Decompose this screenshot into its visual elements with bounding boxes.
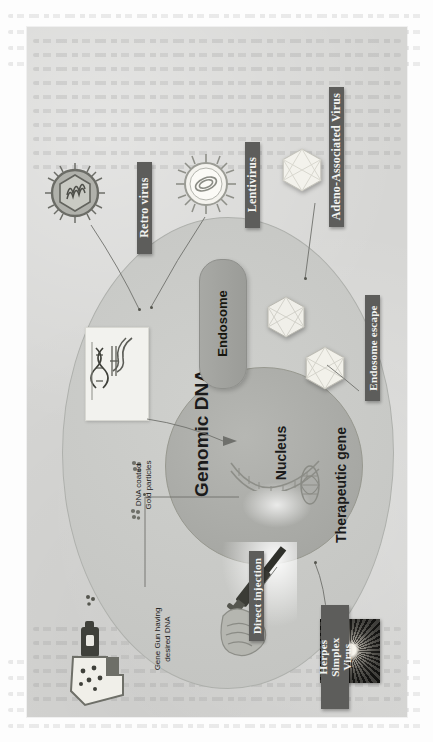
ribbon-label: Direct injection (250, 558, 262, 634)
escaped-capsid-icon (302, 345, 348, 391)
retro-virus-icon (43, 161, 107, 225)
plasmid-dna-panel-icon (85, 327, 149, 421)
gene-gun-icon (67, 619, 145, 711)
ribbon-endosome-escape[interactable]: Endosome escape (365, 295, 380, 401)
arrow-head (223, 433, 241, 451)
aav-capsid-icon (279, 147, 325, 193)
anchor-dot (304, 277, 307, 280)
lentivirus-icon (175, 153, 237, 215)
label-nucleus: Nucleus (273, 383, 289, 523)
scanned-page: Genomic DNA Nucleus Therapeutic gene End… (0, 0, 433, 742)
ribbon-label: Lentivirus (246, 157, 259, 212)
anchor-dot (314, 561, 317, 564)
caption-gold-particles: DNA coated Gold particles (134, 442, 154, 528)
ribbon-lentivirus[interactable]: Lentivirus (245, 142, 260, 228)
ribbon-label: Endosome escape (366, 305, 378, 390)
label-endosome: Endosome (215, 274, 230, 374)
anchor-dot (138, 308, 141, 311)
endosome-capsid-icon (264, 295, 308, 339)
ribbon-label: Retro virus (138, 178, 151, 238)
therapeutic-gene-helix-icon (297, 459, 323, 511)
caption-gene-gun: Gene Gun having desired DNA (153, 591, 173, 687)
figure-panel: Genomic DNA Nucleus Therapeutic gene End… (27, 27, 407, 717)
ribbon-herpes-simplex-virus[interactable]: Herpes Simplex Virus (321, 605, 349, 709)
anchor-dot (150, 306, 153, 309)
ribbon-direct-injection[interactable]: Direct injection (249, 551, 264, 641)
gold-particle-icon (85, 593, 94, 603)
label-therapeutic-gene: Therapeutic gene (333, 395, 349, 575)
ribbon-label: Adeno-Associated Virus (330, 93, 343, 220)
ribbon-label: Herpes Simplex Virus (317, 637, 353, 676)
ribbon-retro-virus[interactable]: Retro virus (137, 162, 152, 254)
ribbon-adeno-associated-virus[interactable]: Adeno-Associated Virus (329, 87, 344, 227)
